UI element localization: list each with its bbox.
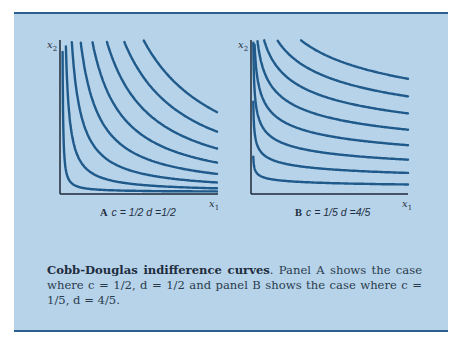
indifference-curve: [107, 42, 217, 149]
panel-b-letter: B: [295, 207, 302, 218]
indifference-curve: [124, 42, 217, 132]
panel-b-caption: Bc = 1/5 d =4/5: [295, 206, 370, 218]
panel-a-plot: x2 x1: [47, 39, 219, 212]
panel-b-plot: x2 x1: [238, 39, 412, 212]
indifference-curve: [278, 41, 408, 97]
figure-caption: Cobb-Douglas indifference curves. Panel …: [47, 263, 422, 308]
panel-b-curves: [253, 40, 408, 184]
indifference-curve: [66, 47, 217, 189]
indifference-curve: [144, 41, 217, 113]
panel-b-y-label: x2: [238, 39, 248, 53]
panel-a-curves: [63, 41, 217, 192]
panel-b-x-label: x1: [402, 198, 412, 212]
panel-a-x-label: x1: [209, 198, 219, 212]
panel-a-caption: Ac = 1/2 d =1/2: [100, 206, 176, 218]
panel-b-params: c = 1/5 d =4/5: [306, 206, 370, 218]
panel-a-letter: A: [100, 207, 108, 218]
panel-a-params: c = 1/2 d =1/2: [112, 206, 176, 218]
caption-title: Cobb-Douglas indifference curves: [47, 263, 270, 277]
indifference-curve: [258, 41, 409, 130]
panel-a-y-label: x2: [47, 39, 57, 53]
indifference-curve: [72, 42, 217, 182]
